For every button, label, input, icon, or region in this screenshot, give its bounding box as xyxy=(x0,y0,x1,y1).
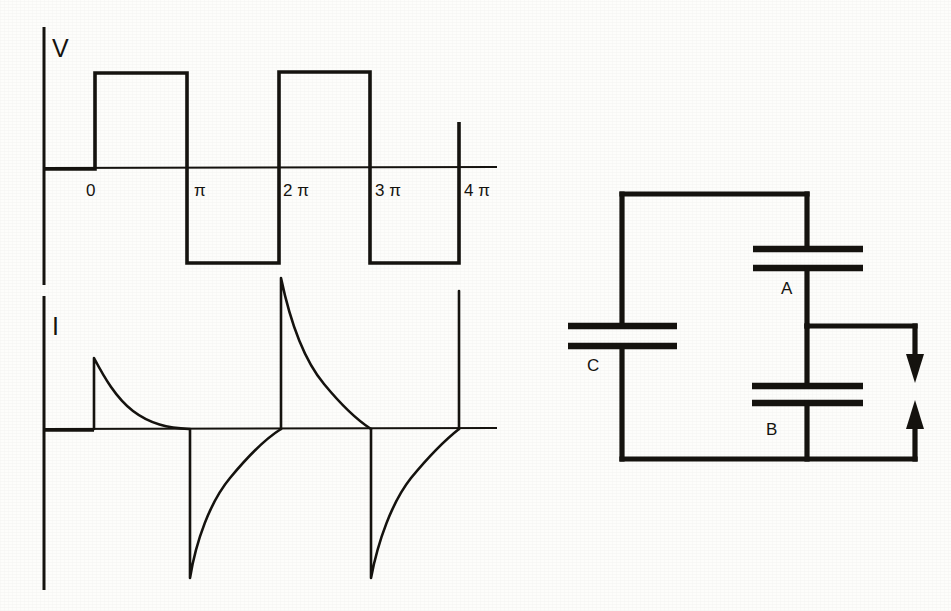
voltage-tick-pi: π xyxy=(194,181,206,200)
arrow-down-icon xyxy=(906,354,924,383)
voltage-tick-2pi: 2 π xyxy=(283,181,309,200)
figure-canvas: V 0 π 2 π 3 π 4 π I xyxy=(0,0,951,611)
current-axis-label: I xyxy=(52,312,59,340)
figure-root: V 0 π 2 π 3 π 4 π I xyxy=(0,0,951,611)
voltage-axis-label: V xyxy=(52,34,69,62)
voltage-tick-0: 0 xyxy=(86,181,95,200)
arrow-up-icon xyxy=(906,400,924,429)
voltage-plot-group: V 0 π 2 π 3 π 4 π xyxy=(44,27,497,285)
voltage-tick-3pi: 3 π xyxy=(375,181,401,200)
current-spike-1 xyxy=(94,358,189,429)
voltage-tick-4pi: 4 π xyxy=(464,181,490,200)
circuit-group: C A B xyxy=(568,194,924,459)
capacitor-c-label: C xyxy=(587,356,599,375)
current-x-axis xyxy=(44,428,497,429)
current-spike-4 xyxy=(371,429,459,578)
capacitor-b-label: B xyxy=(766,420,777,439)
voltage-x-axis xyxy=(44,167,497,168)
capacitor-a-label: A xyxy=(781,279,793,298)
current-spike-3 xyxy=(281,278,371,429)
current-plot-group: I xyxy=(44,278,497,590)
current-spike-2 xyxy=(190,429,281,578)
